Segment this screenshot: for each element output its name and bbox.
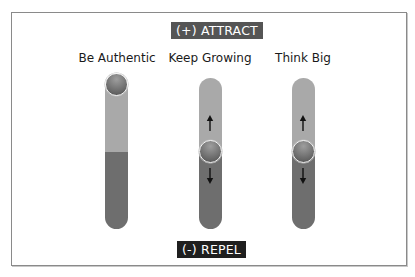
slider-label-keep-growing: Keep Growing xyxy=(168,51,251,65)
slider-label-be-authentic: Be Authentic xyxy=(78,51,155,65)
slider-label-think-big: Think Big xyxy=(275,51,331,65)
slider-knob-think-big[interactable] xyxy=(292,140,315,163)
up-arrow-icon xyxy=(205,114,215,132)
down-arrow-icon xyxy=(205,167,215,185)
attract-label: (+) ATTRACT xyxy=(171,22,263,39)
slider-track-be-authentic[interactable] xyxy=(105,78,128,229)
down-arrow-icon xyxy=(298,167,308,185)
repel-label: (-) REPEL xyxy=(177,241,246,258)
up-arrow-icon xyxy=(298,114,308,132)
repel-segment xyxy=(105,152,128,229)
slider-knob-keep-growing[interactable] xyxy=(199,140,222,163)
slider-knob-be-authentic[interactable] xyxy=(105,73,128,96)
